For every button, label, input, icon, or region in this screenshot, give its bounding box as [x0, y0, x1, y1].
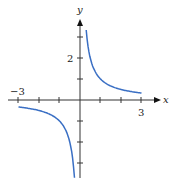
x-axis-label: x — [163, 94, 169, 105]
graph: −3 3 2 x y — [0, 0, 170, 186]
y-axis-arrow-icon — [77, 19, 83, 26]
curve-left-branch — [19, 107, 75, 178]
curve-right-branch — [86, 30, 141, 93]
x-axis-arrow-icon — [154, 97, 161, 103]
x-tick-label-neg3: −3 — [10, 86, 25, 97]
y-axis-label: y — [76, 4, 83, 15]
x-tick-label-3: 3 — [138, 107, 144, 118]
y-tick-label-2: 2 — [67, 53, 73, 64]
